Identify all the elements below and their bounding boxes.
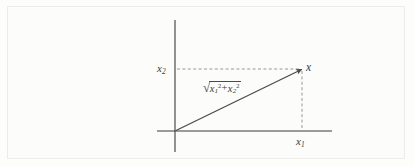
figure-page: x2 x1 x √x12+x22 <box>0 0 414 167</box>
y-axis-tick-label: x2 <box>157 63 166 76</box>
point-label-x: x <box>306 62 311 74</box>
norm-expression: √x12+x22 <box>203 80 241 95</box>
norm-term2-base: x <box>228 82 233 93</box>
y-axis-label-subscript: 2 <box>162 67 166 76</box>
norm-term2-superscript: 2 <box>236 82 239 89</box>
radicand: x12+x22 <box>209 81 241 94</box>
x-axis-label-subscript: 1 <box>301 140 305 149</box>
radical-sign: √ <box>203 80 209 95</box>
vector-arrow <box>176 70 302 131</box>
x-axis-tick-label: x1 <box>296 136 305 149</box>
